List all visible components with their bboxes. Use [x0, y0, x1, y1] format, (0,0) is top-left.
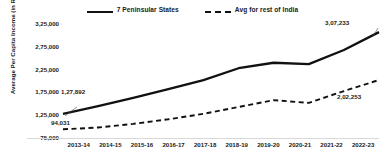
x-axis-tick-label: 2014-15	[95, 142, 127, 156]
solid-line-icon	[87, 6, 113, 15]
x-axis-tick-label: 2015-16	[126, 142, 158, 156]
legend-label-rest-of-india: Avg for rest of India	[235, 7, 298, 14]
y-axis-tick-label: 2,75,000	[35, 44, 59, 50]
x-axis-line	[27, 138, 379, 139]
legend-item-rest-of-india[interactable]: Avg for rest of India	[205, 6, 298, 15]
legend-item-peninsular[interactable]: 7 Peninsular States	[87, 6, 179, 15]
line-chart: 7 Peninsular States Avg for rest of Indi…	[0, 0, 385, 162]
x-axis-tick-label: 2018-19	[221, 142, 253, 156]
x-axis-tick-label: 2013-14	[63, 142, 95, 156]
data-label-end-peninsular: 3,07,233	[325, 20, 349, 26]
y-axis-tick-label: 1,75,000	[35, 89, 59, 95]
plot-area	[63, 24, 379, 138]
y-axis-tick-label: 1,25,000	[35, 112, 59, 118]
data-label-start-rest-of-india: 94,031	[51, 120, 70, 126]
series-lines	[63, 24, 379, 138]
y-axis-tick-label: 3,25,000	[35, 21, 59, 27]
x-axis-tick-label: 2017-18	[189, 142, 221, 156]
plot-wrapper: 75,0001,25,0001,75,0002,25,0002,75,0003,…	[27, 24, 379, 138]
x-axis-tick-label: 2022-23	[347, 142, 379, 156]
legend-label-peninsular: 7 Peninsular States	[117, 7, 179, 14]
series-line-avg-for-rest-of-india	[63, 80, 379, 129]
y-axis-tick-label: 2,25,000	[35, 67, 59, 73]
x-axis-tick-label: 2021-22	[316, 142, 348, 156]
x-axis-tick-label: 2020-21	[284, 142, 316, 156]
x-axis-ticks: 2013-142014-152015-162016-172017-182018-…	[63, 142, 379, 156]
data-label-start-peninsular: 1,27,892	[61, 89, 85, 95]
y-axis-title: Average Per Capita Income (in Rs.)	[2, 0, 24, 100]
series-line-7-peninsular-states	[63, 32, 379, 114]
chart-legend: 7 Peninsular States Avg for rest of Indi…	[0, 6, 385, 15]
dashed-line-icon	[205, 6, 231, 15]
x-axis-tick-label: 2019-20	[253, 142, 285, 156]
data-label-end-rest-of-india: 2,02,253	[337, 94, 361, 100]
x-axis-tick-label: 2016-17	[158, 142, 190, 156]
